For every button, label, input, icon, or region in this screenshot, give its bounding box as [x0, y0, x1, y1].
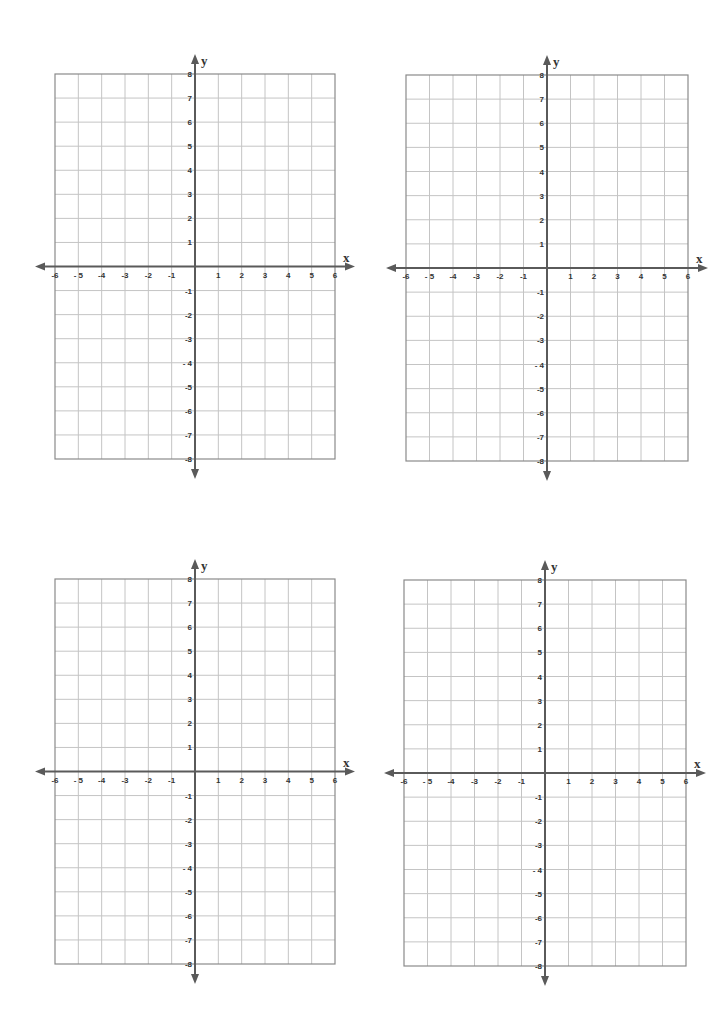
x-tick-label: -3: [121, 776, 129, 785]
y-tick-label: 2: [188, 214, 193, 223]
x-tick-label: -2: [145, 776, 153, 785]
y-tick-label: - 4: [535, 361, 545, 370]
y-axis-up-arrow-icon: [541, 560, 549, 570]
y-tick-label: 3: [188, 190, 193, 199]
y-tick-label: -3: [185, 335, 193, 344]
y-tick-label: -7: [185, 431, 193, 440]
grid-svg: xy-6- 5-4-3-2-112345687654321-1-2-3- 4-5…: [406, 75, 688, 461]
y-tick-label: -1: [535, 793, 543, 802]
y-tick-label: 2: [538, 721, 543, 730]
x-tick-label: 4: [637, 777, 642, 786]
y-tick-label: 1: [188, 238, 193, 247]
y-tick-label: -8: [185, 960, 193, 969]
y-tick-label: -6: [185, 912, 193, 921]
y-tick-label: -6: [185, 407, 193, 416]
y-tick-label: -5: [537, 385, 545, 394]
y-tick-label: -5: [535, 890, 543, 899]
y-tick-label: -1: [537, 288, 545, 297]
grid-svg: xy-6- 5-4-3-2-112345687654321-1-2-3- 4-5…: [55, 579, 335, 964]
x-tick-label: 6: [333, 776, 338, 785]
x-tick-label: 3: [613, 777, 618, 786]
y-tick-label: 5: [188, 647, 193, 656]
y-tick-label: -2: [185, 311, 193, 320]
y-tick-label: 4: [188, 166, 193, 175]
x-tick-label: 3: [263, 776, 268, 785]
y-tick-label: 6: [188, 623, 193, 632]
x-tick-label: - 5: [74, 776, 84, 785]
y-axis-label: y: [201, 53, 208, 68]
x-axis-label: x: [696, 251, 703, 266]
y-tick-label: 4: [538, 673, 543, 682]
y-axis-down-arrow-icon: [543, 471, 551, 481]
y-axis-down-arrow-icon: [191, 974, 199, 984]
y-tick-label: 2: [540, 216, 545, 225]
y-tick-label: -2: [535, 817, 543, 826]
x-tick-label: -2: [145, 271, 153, 280]
coordinate-plane-bottom-right: xy-6- 5-4-3-2-112345687654321-1-2-3- 4-5…: [404, 580, 686, 966]
y-tick-label: 1: [188, 743, 193, 752]
y-tick-label: 1: [540, 240, 545, 249]
x-tick-label: 4: [286, 776, 291, 785]
y-tick-label: -3: [537, 336, 545, 345]
x-tick-label: 6: [684, 777, 689, 786]
x-tick-label: - 5: [423, 777, 433, 786]
x-tick-label: -4: [449, 272, 457, 281]
x-tick-label: 1: [216, 271, 221, 280]
y-tick-label: - 4: [533, 866, 543, 875]
y-tick-label: -7: [535, 938, 543, 947]
y-tick-label: 4: [188, 671, 193, 680]
x-axis-label: x: [343, 250, 350, 265]
x-tick-label: -3: [121, 271, 129, 280]
coordinate-plane-bottom-left: xy-6- 5-4-3-2-112345687654321-1-2-3- 4-5…: [55, 579, 335, 964]
y-tick-label: - 4: [183, 864, 193, 873]
x-tick-label: 5: [660, 777, 665, 786]
x-tick-label: -4: [447, 777, 455, 786]
x-tick-label: -2: [496, 272, 504, 281]
x-tick-label: 5: [662, 272, 667, 281]
x-tick-label: 2: [239, 776, 244, 785]
x-tick-label: -4: [98, 776, 106, 785]
x-tick-label: -1: [168, 776, 176, 785]
x-tick-label: -6: [400, 777, 408, 786]
x-tick-label: -6: [51, 776, 59, 785]
y-tick-label: 7: [540, 95, 545, 104]
y-tick-label: 8: [540, 71, 545, 80]
y-tick-label: 2: [188, 719, 193, 728]
y-tick-label: 8: [188, 575, 193, 584]
y-axis-label: y: [553, 54, 560, 69]
x-tick-label: 2: [590, 777, 595, 786]
y-axis-label: y: [201, 558, 208, 573]
x-tick-label: 2: [592, 272, 597, 281]
y-tick-label: -5: [185, 383, 193, 392]
y-tick-label: 5: [540, 143, 545, 152]
x-tick-label: 2: [239, 271, 244, 280]
x-tick-label: -6: [51, 271, 59, 280]
y-tick-label: 6: [188, 118, 193, 127]
x-tick-label: -3: [473, 272, 481, 281]
x-tick-label: 5: [309, 271, 314, 280]
y-tick-label: 7: [188, 599, 193, 608]
x-tick-label: -1: [520, 272, 528, 281]
y-tick-label: -2: [185, 816, 193, 825]
y-tick-label: 5: [188, 142, 193, 151]
x-tick-label: -2: [494, 777, 502, 786]
x-axis-left-arrow-icon: [384, 769, 394, 777]
x-tick-label: 6: [333, 271, 338, 280]
y-tick-label: 3: [540, 192, 545, 201]
y-axis-down-arrow-icon: [541, 976, 549, 986]
y-tick-label: 5: [538, 648, 543, 657]
grid-svg: xy-6- 5-4-3-2-112345687654321-1-2-3- 4-5…: [404, 580, 686, 966]
x-tick-label: -3: [471, 777, 479, 786]
y-axis-up-arrow-icon: [191, 559, 199, 569]
x-tick-label: 5: [309, 776, 314, 785]
y-tick-label: -2: [537, 312, 545, 321]
x-tick-label: 1: [566, 777, 571, 786]
coordinate-plane-top-left: xy-6- 5-4-3-2-112345687654321-1-2-3- 4-5…: [55, 74, 335, 459]
y-tick-label: - 4: [183, 359, 193, 368]
y-axis-down-arrow-icon: [191, 469, 199, 479]
x-tick-label: -4: [98, 271, 106, 280]
y-tick-label: 7: [538, 600, 543, 609]
x-tick-label: 3: [615, 272, 620, 281]
y-tick-label: -7: [185, 936, 193, 945]
y-tick-label: 4: [540, 168, 545, 177]
